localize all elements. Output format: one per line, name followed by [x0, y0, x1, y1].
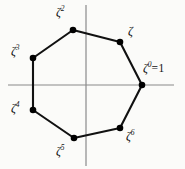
vertex-label-zeta6-exponent: 6 — [131, 128, 135, 137]
vertex-label-zeta2-exponent: 2 — [61, 4, 65, 13]
vertex-dot-zeta2 — [70, 27, 77, 34]
vertex-dot-zeta5 — [71, 135, 78, 142]
vertex-label-zeta4: ζ4 — [11, 102, 20, 114]
vertex-label-zeta1-base: ζ — [128, 24, 133, 38]
vertex-dots-group — [30, 27, 146, 142]
heptagon-diagram — [0, 0, 185, 169]
heptagon-outline — [33, 30, 142, 138]
figure-container: ζ2 ζ ζ3 ζ0=1 ζ4 ζ6 ζ5 — [0, 0, 185, 169]
vertex-label-zeta1: ζ — [128, 25, 133, 37]
vertex-dot-zeta1 — [117, 39, 124, 46]
vertex-dot-zeta4 — [30, 107, 37, 114]
vertex-label-zeta3-exponent: 3 — [16, 43, 20, 52]
vertex-label-zeta2: ζ2 — [56, 6, 65, 18]
vertex-label-zeta5-exponent: 5 — [61, 143, 65, 152]
vertex-label-zeta4-exponent: 4 — [16, 100, 20, 109]
vertex-dot-zeta3 — [30, 55, 37, 62]
vertex-label-zeta0: ζ0=1 — [143, 62, 164, 75]
heptagon-group — [33, 30, 142, 138]
vertex-label-zeta3: ζ3 — [11, 45, 20, 57]
vertex-label-zeta6: ζ6 — [126, 130, 135, 142]
vertex-label-zeta0-equals: = — [152, 62, 159, 74]
vertex-dot-zeta0 — [139, 82, 146, 89]
vertex-dot-zeta6 — [117, 125, 124, 132]
vertex-label-zeta0-value: 1 — [159, 62, 165, 74]
vertex-label-zeta5: ζ5 — [56, 145, 65, 157]
